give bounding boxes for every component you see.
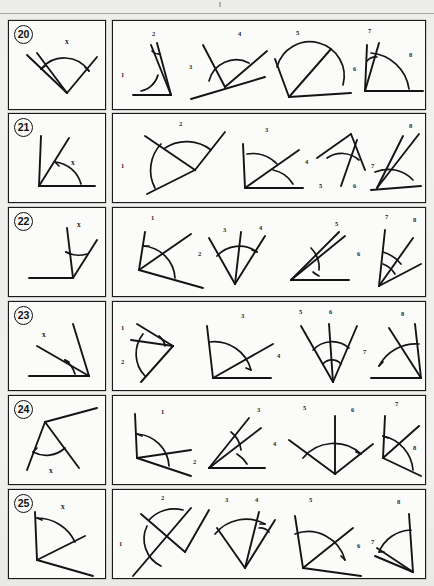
option-figures-21	[113, 114, 425, 202]
problem-row-23: 23 x	[0, 301, 434, 391]
problem-row-20: 20 x	[0, 20, 434, 110]
option-number-24-5[interactable]: 5	[303, 404, 306, 411]
option-number-20-8[interactable]: 8	[409, 51, 412, 58]
option-number-24-7[interactable]: 7	[395, 400, 398, 407]
stimulus-figure-24	[9, 396, 105, 484]
stimulus-figure-23	[9, 302, 105, 390]
option-number-21-5[interactable]: 5	[319, 182, 322, 189]
option-number-23-1[interactable]: 1	[121, 324, 124, 331]
page-top-rule	[0, 13, 434, 14]
option-number-23-7[interactable]: 7	[363, 348, 366, 355]
options-panel-22[interactable]: 1 2 3 4 5 6 7 8	[112, 207, 426, 297]
stimulus-box-25[interactable]: 25 x	[8, 489, 106, 579]
option-figures-22	[113, 208, 425, 296]
problem-row-21: 21 x	[0, 113, 434, 203]
stimulus-box-24[interactable]: 24 x	[8, 395, 106, 485]
option-number-20-5[interactable]: 5	[296, 29, 299, 36]
option-number-21-6[interactable]: 6	[353, 182, 356, 189]
option-number-24-8[interactable]: 8	[413, 444, 416, 451]
option-number-22-2[interactable]: 2	[198, 250, 201, 257]
option-number-24-4[interactable]: 4	[273, 440, 276, 447]
option-number-20-7[interactable]: 7	[368, 27, 371, 34]
stimulus-box-21[interactable]: 21 x	[8, 113, 106, 203]
option-number-25-6[interactable]: 6	[357, 542, 360, 549]
option-figures-20	[113, 21, 425, 109]
stimulus-angle-label-24: x	[49, 466, 53, 475]
stimulus-figure-22	[9, 208, 105, 296]
option-number-20-4[interactable]: 4	[238, 30, 241, 37]
problem-row-22: 22 x	[0, 207, 434, 297]
option-number-22-1[interactable]: 1	[151, 214, 154, 221]
option-figures-24	[113, 396, 425, 484]
stimulus-angle-label-22: x	[77, 220, 81, 229]
stimulus-angle-label-21: x	[71, 158, 75, 167]
options-panel-25[interactable]: 1 2 3 4 5 6 7 8	[112, 489, 426, 579]
option-number-23-5[interactable]: 5	[299, 308, 302, 315]
stimulus-box-23[interactable]: 23 x	[8, 301, 106, 391]
worksheet-page: 20 x	[0, 0, 434, 586]
page-top-mark	[219, 2, 221, 7]
option-number-25-3[interactable]: 3	[225, 496, 228, 503]
option-number-22-4[interactable]: 4	[259, 224, 262, 231]
option-figures-23	[113, 302, 425, 390]
options-panel-23[interactable]: 1 2 3 4 5 6 7 8	[112, 301, 426, 391]
option-number-21-2[interactable]: 2	[179, 120, 182, 127]
option-number-22-7[interactable]: 7	[385, 213, 388, 220]
stimulus-box-22[interactable]: 22 x	[8, 207, 106, 297]
stimulus-figure-20	[9, 21, 105, 109]
option-number-21-3[interactable]: 3	[265, 126, 268, 133]
option-number-25-2[interactable]: 2	[161, 494, 164, 501]
stimulus-angle-label-20: x	[65, 37, 69, 46]
option-number-24-1[interactable]: 1	[161, 408, 164, 415]
option-number-22-8[interactable]: 8	[413, 216, 416, 223]
stimulus-figure-25	[9, 490, 105, 578]
option-number-25-1[interactable]: 1	[119, 540, 122, 547]
option-number-25-4[interactable]: 4	[255, 496, 258, 503]
stimulus-box-20[interactable]: 20 x	[8, 20, 106, 110]
option-number-25-7[interactable]: 7	[371, 538, 374, 545]
option-number-20-6[interactable]: 6	[353, 65, 356, 72]
option-number-21-1[interactable]: 1	[121, 162, 124, 169]
option-number-23-8[interactable]: 8	[401, 310, 404, 317]
option-number-23-6[interactable]: 6	[329, 308, 332, 315]
stimulus-figure-21	[9, 114, 105, 202]
option-number-25-5[interactable]: 5	[309, 496, 312, 503]
option-number-22-6[interactable]: 6	[357, 250, 360, 257]
stimulus-angle-label-25: x	[61, 502, 65, 511]
option-number-24-3[interactable]: 3	[257, 406, 260, 413]
option-number-24-2[interactable]: 2	[193, 458, 196, 465]
option-number-23-4[interactable]: 4	[277, 352, 280, 359]
option-number-20-3[interactable]: 3	[189, 63, 192, 70]
options-panel-20[interactable]: 1 2 3 4 5 6 7 8	[112, 20, 426, 110]
option-number-22-5[interactable]: 5	[335, 220, 338, 227]
option-number-21-8[interactable]: 8	[409, 122, 412, 129]
option-number-21-4[interactable]: 4	[305, 158, 308, 165]
option-number-20-2[interactable]: 2	[152, 30, 155, 37]
problem-row-25: 25 x	[0, 489, 434, 579]
option-figures-25	[113, 490, 425, 578]
stimulus-angle-label-23: x	[42, 330, 46, 339]
option-number-24-6[interactable]: 6	[351, 406, 354, 413]
option-number-23-3[interactable]: 3	[241, 312, 244, 319]
option-number-25-8[interactable]: 8	[397, 498, 400, 505]
problem-row-24: 24 x	[0, 395, 434, 485]
option-number-22-3[interactable]: 3	[223, 226, 226, 233]
options-panel-24[interactable]: 1 2 3 4 5 6 7 8	[112, 395, 426, 485]
options-panel-21[interactable]: 1 2 3 4 5 6 7 8	[112, 113, 426, 203]
option-number-23-2[interactable]: 2	[121, 358, 124, 365]
option-number-20-1[interactable]: 1	[121, 71, 124, 78]
option-number-21-7[interactable]: 7	[371, 162, 374, 169]
